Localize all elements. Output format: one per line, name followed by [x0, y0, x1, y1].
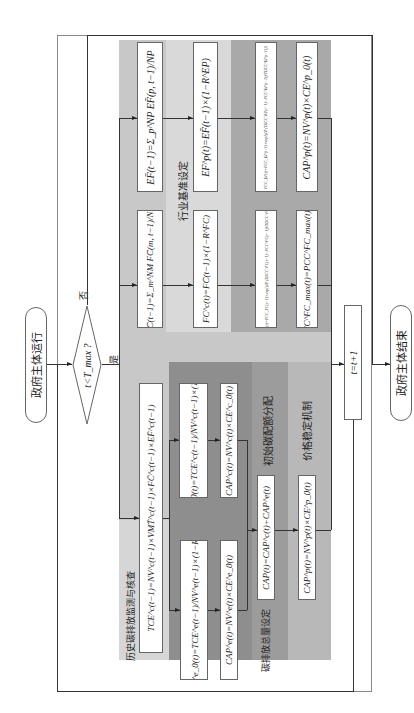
arrow-icon	[252, 528, 257, 532]
formula-fc-c: FC^c(t)=FC̄(t−1)×(1−R^FC)	[193, 210, 218, 328]
connector-cap-out	[318, 118, 331, 119]
connector-cape-merge	[238, 610, 247, 611]
arrow-icon	[132, 116, 137, 120]
connector-no-right	[372, 35, 373, 364]
start-node: 政府主体运行	[25, 307, 47, 423]
formula-pcc-ep: PCC_EP(t)=PCC_EP(t−1)×exp[(IZ·(TDCC^EP(t…	[255, 42, 277, 192]
formula-fc-bar: FC̄(t−1)=Σ_m^NM FC̄(m, t−1)/NM	[137, 210, 163, 328]
connector-max-out	[318, 285, 331, 286]
arrow-icon	[385, 362, 390, 366]
arrow-icon	[175, 608, 180, 612]
arrow-icon	[250, 116, 255, 120]
connector-feedback-bottom	[57, 691, 354, 692]
formula-ef-bar: EF̄(t−1)=Σ_p^NP EF̄(p, t−1)/NP	[137, 42, 163, 192]
formula-pcc-max: PCC^FC_max(t)=PCC^FC_max(t)×2	[296, 210, 318, 328]
connector-tce-split	[169, 440, 170, 610]
section-label-total: 碳排放总量设定	[256, 595, 274, 685]
section-label-initial-alloc: 初始碳配额分配	[257, 380, 277, 480]
section-label-industry: 行业基准设定	[172, 150, 192, 230]
arrow-icon	[188, 116, 193, 120]
arrow-icon	[250, 283, 255, 287]
formula-cap-e: CAP^e(t)=NV^e(t)×CE^e_0(t)	[220, 540, 238, 680]
arrow-icon	[291, 283, 296, 287]
arrow-icon	[215, 608, 220, 612]
increment-box: t=t+1	[344, 305, 362, 420]
arrow-icon	[339, 362, 344, 366]
formula-cap-total: CAP(t)=CAP^c(t)+CAP^e(t)	[257, 475, 275, 600]
connector-right-merge	[331, 118, 332, 530]
arrow-icon	[291, 116, 296, 120]
section-label-price: 价格稳定机制	[296, 380, 316, 480]
connector-yes	[102, 364, 119, 365]
formula-cap-c: CAP^c(t)=NV^c(t)×CE^c_0(t)	[220, 383, 238, 498]
connector-cap-p-out	[316, 530, 331, 531]
arrow-icon	[293, 528, 298, 532]
arrow-icon	[174, 438, 179, 442]
formula-ce-c: CE^c_0(t)=TCE^c(t−1)/NV^c(t−1)×(1−R^c)	[179, 383, 208, 498]
formula-tce: TCE^c(t−1)=NV^c(t−1)×VMT̄^c(t−1)×FC̄^c(t…	[139, 383, 163, 653]
arrow-icon	[188, 283, 193, 287]
formula-pcc-fc: PCC_FC(t)=PCC_FC(t−1)×exp[(IZ·(TDCC^FC(t…	[255, 210, 277, 328]
connector-cap-merge	[247, 440, 248, 610]
formula-cap-p: CAP^p(t)=NV^p(t)×CE^p_0(t)	[298, 475, 316, 600]
arrow-icon	[134, 516, 139, 520]
arrow-icon	[67, 362, 72, 366]
arrow-icon	[215, 438, 220, 442]
connector-no-up	[87, 35, 88, 305]
formula-cap-ep: CAP^p(t)=NV^p(t)×CE^p_0(t)	[296, 42, 318, 192]
connector-no-top	[87, 35, 372, 36]
end-node: 政府主体结束	[390, 305, 412, 421]
decision-label: t<T_max ?	[76, 340, 98, 390]
arrow-icon	[132, 283, 137, 287]
connector-yes-vertical	[119, 118, 120, 518]
connector-increment-down	[353, 420, 354, 692]
formula-ce-e: CE^e_0(t)=TCE^e(t−1)/NV^e(t−1)×(1−R^e)	[180, 540, 208, 680]
section-label-history: 历史碳排放监测与核查	[121, 555, 139, 675]
connector-capc-merge	[238, 440, 247, 441]
connector-feedback-left	[57, 364, 58, 692]
formula-ef-p: EF^p(t)=EF̄(t−1)×(1−R^EP)	[193, 42, 218, 192]
